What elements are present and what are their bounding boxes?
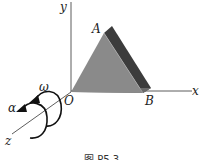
- alpha-label: α: [8, 101, 16, 115]
- point-b-label: B: [144, 94, 154, 108]
- diagram-canvas: y x z O A B ω α 图 P5.3: [0, 0, 201, 160]
- point-a-label: A: [91, 22, 101, 36]
- origin-label: O: [64, 94, 74, 108]
- figure-caption: 图 P5.3: [84, 154, 119, 160]
- y-axis-label: y: [59, 0, 67, 14]
- x-axis-label: x: [192, 84, 199, 98]
- omega-rotation-arrow: [35, 91, 61, 126]
- z-axis: [12, 92, 71, 134]
- omega-label: ω: [39, 80, 49, 94]
- z-axis-label: z: [4, 134, 12, 148]
